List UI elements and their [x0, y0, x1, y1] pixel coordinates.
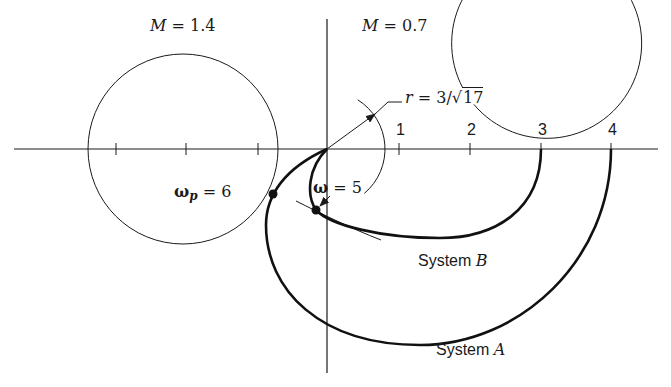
m-circle-1-4-label: M = 1.4 [150, 18, 215, 34]
equals: = [166, 16, 190, 35]
omega-symbol: ω [313, 178, 328, 197]
omega-value: 6 [221, 182, 231, 201]
m-value: 0.7 [402, 16, 427, 35]
system-prefix: System [436, 341, 494, 358]
m-circle-0-7 [452, 0, 642, 138]
sqrt-argument: 17 [462, 87, 483, 107]
equals: = [378, 16, 402, 35]
r-symbol: r [405, 88, 413, 107]
omega-subscript: p [189, 189, 197, 203]
system-a-label: System A [436, 342, 505, 358]
system-name: A [494, 340, 506, 359]
omega-value: 5 [352, 178, 362, 197]
tick-label: 3 [538, 122, 547, 138]
tangent-arc [296, 201, 381, 240]
nyquist-m-circle-diagram: 1234 M = 1.4 M = 0.7 r = 3/√17 ωp = 6 ω … [0, 0, 671, 387]
system-prefix: System [418, 252, 476, 269]
equals: = [413, 88, 437, 107]
m-value: 1.4 [190, 16, 215, 35]
sqrt-icon: √ [452, 88, 462, 107]
equals: = [198, 182, 222, 201]
radius-arrow [327, 114, 375, 149]
omega-symbol: ω [174, 182, 189, 201]
radius-leader-line [375, 102, 402, 114]
omega-5-label: ω = 5 [313, 180, 362, 196]
m-symbol: M [150, 16, 166, 35]
numerator: 3/ [436, 88, 452, 107]
equals: = [328, 178, 352, 197]
omega-p-label: ωp = 6 [174, 184, 231, 202]
tick-label: 4 [608, 122, 617, 138]
system-b-label: System B [418, 253, 488, 269]
omega-5-arrow [320, 196, 330, 206]
m-symbol: M [362, 16, 378, 35]
tick-label: 2 [467, 122, 476, 138]
omega-5-point [312, 206, 321, 215]
tick-label: 1 [396, 122, 405, 138]
omega-p-point [269, 190, 278, 199]
radius-label: r = 3/√17 [405, 90, 483, 106]
system-name: B [476, 251, 488, 270]
m-circle-0-7-label: M = 0.7 [362, 18, 427, 34]
